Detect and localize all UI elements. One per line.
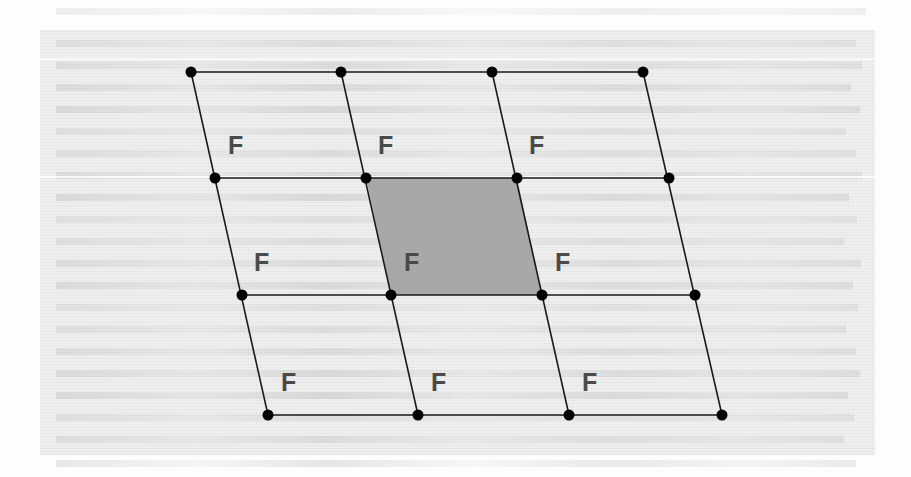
shaded-cell-group	[366, 178, 542, 295]
lattice-point	[263, 410, 274, 421]
lattice-point	[664, 173, 675, 184]
lattice-point	[210, 173, 221, 184]
lattice-point	[717, 410, 728, 421]
cell-label-f: F	[228, 133, 243, 158]
figure-page: FFFFFFFFF	[0, 0, 911, 477]
cell-label-f: F	[529, 133, 544, 158]
lattice-point	[564, 410, 575, 421]
lattice-point	[690, 290, 701, 301]
lattice-point	[413, 410, 424, 421]
lattice-point	[487, 67, 498, 78]
lattice-point	[537, 290, 548, 301]
cell-label-f: F	[378, 133, 393, 158]
lattice-point	[237, 290, 248, 301]
lattice-diagram	[0, 0, 911, 477]
cell-label-f: F	[431, 370, 446, 395]
lattice-point	[336, 67, 347, 78]
shaded-unit-cell	[366, 178, 542, 295]
cell-label-f: F	[281, 370, 296, 395]
lattice-column-line	[643, 72, 722, 415]
cell-label-f: F	[404, 250, 419, 275]
lattice-point	[361, 173, 372, 184]
lattice-point	[186, 67, 197, 78]
lattice-column-line	[191, 72, 268, 415]
lattice-point	[638, 67, 649, 78]
lattice-point	[386, 290, 397, 301]
cell-label-f: F	[582, 370, 597, 395]
cell-label-f: F	[555, 250, 570, 275]
lattice-point	[512, 173, 523, 184]
cell-label-f: F	[254, 250, 269, 275]
